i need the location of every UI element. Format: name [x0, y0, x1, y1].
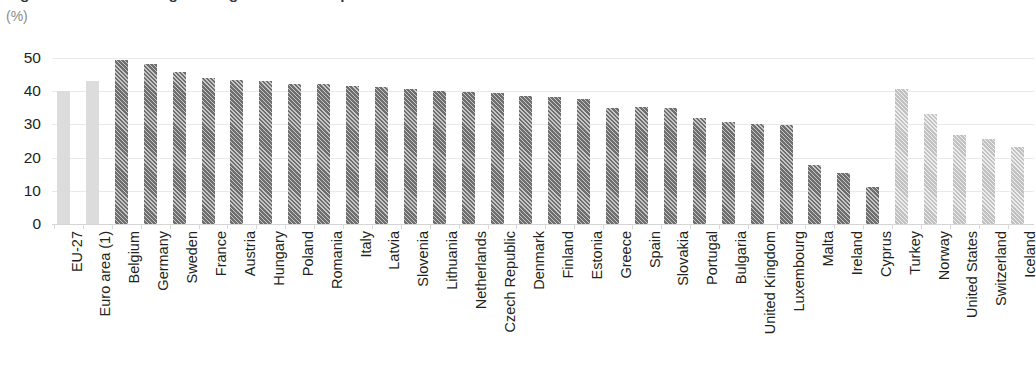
bar-cyprus[interactable] [866, 187, 879, 224]
tickmark-15 [488, 224, 489, 229]
tickmark-8 [285, 224, 286, 229]
bar-series [52, 58, 1034, 224]
tickmark-0 [54, 224, 55, 229]
bar-latvia[interactable] [375, 87, 388, 224]
x-axis-label-romania: Romania [330, 231, 345, 289]
tickmark-24 [748, 224, 749, 229]
x-axis-label-belgium: Belgium [127, 231, 142, 283]
y-axis-label-0: 0 [32, 216, 41, 232]
bar-netherlands[interactable] [462, 92, 475, 224]
tickmark-26 [805, 224, 806, 229]
x-axis-label-netherlands: Netherlands [474, 231, 489, 309]
bar-greece[interactable] [606, 108, 619, 224]
x-axis-label-united-states: United States [965, 231, 980, 318]
x-axis-label-norway: Norway [937, 231, 952, 280]
x-axis-label-sweden: Sweden [185, 231, 200, 283]
bar-euro-area-1[interactable] [86, 81, 99, 224]
x-axis-category-labels: EU-27Euro area (1)BelgiumGermanySwedenFr… [52, 231, 1034, 381]
bar-belgium[interactable] [115, 60, 128, 224]
bar-romania[interactable] [317, 84, 330, 224]
tickmark-30 [921, 224, 922, 229]
bar-france[interactable] [202, 78, 215, 224]
tickmark-5 [199, 224, 200, 229]
bar-austria[interactable] [230, 80, 243, 224]
x-axis-label-france: France [214, 231, 229, 276]
x-axis-label-austria: Austria [243, 231, 258, 276]
tickmark-1 [83, 224, 84, 229]
x-axis-tickmarks [52, 224, 1034, 229]
x-axis-label-united-kingdom: United Kingdom [763, 231, 778, 334]
x-axis-label-portugal: Portugal [705, 231, 720, 285]
bar-malta[interactable] [808, 165, 821, 224]
y-axis-label-30: 30 [24, 116, 41, 132]
bar-united-kingdom[interactable] [751, 124, 764, 224]
tickmark-21 [661, 224, 662, 229]
bar-slovenia[interactable] [404, 89, 417, 224]
tickmark-11 [372, 224, 373, 229]
bar-iceland[interactable] [1011, 147, 1024, 224]
tickmark-13 [430, 224, 431, 229]
tickmark-31 [950, 224, 951, 229]
bar-spain[interactable] [635, 107, 648, 224]
tickmark-2 [112, 224, 113, 229]
bar-denmark[interactable] [519, 96, 532, 224]
bar-luxembourg[interactable] [780, 125, 793, 224]
tickmark-3 [141, 224, 142, 229]
x-axis-label-eu-27: EU-27 [70, 231, 85, 272]
bar-hungary[interactable] [259, 81, 272, 224]
x-axis-label-czech-republic: Czech Republic [503, 231, 518, 333]
bar-sweden[interactable] [173, 72, 186, 224]
bar-bulgaria[interactable] [722, 122, 735, 224]
tickmark-7 [256, 224, 257, 229]
tickmark-27 [834, 224, 835, 229]
tickmark-12 [401, 224, 402, 229]
bar-portugal[interactable] [693, 118, 706, 224]
bar-estonia[interactable] [577, 99, 590, 224]
bar-lithuania[interactable] [433, 91, 446, 224]
bar-switzerland[interactable] [982, 139, 995, 224]
bar-turkey[interactable] [895, 89, 908, 224]
x-axis-label-slovakia: Slovakia [676, 231, 691, 286]
bar-czech-republic[interactable] [491, 93, 504, 224]
tickmark-9 [314, 224, 315, 229]
x-axis-label-estonia: Estonia [590, 231, 605, 279]
y-axis-label-50: 50 [24, 50, 41, 66]
tickmark-28 [863, 224, 864, 229]
tickmark-10 [343, 224, 344, 229]
bar-poland[interactable] [288, 84, 301, 224]
x-axis-label-iceland: Iceland [1023, 231, 1036, 278]
x-axis-label-ireland: Ireland [850, 231, 865, 275]
x-axis-label-denmark: Denmark [532, 231, 547, 290]
tickmark-33 [1008, 224, 1009, 229]
x-axis-label-greece: Greece [619, 231, 634, 279]
x-axis-label-latvia: Latvia [387, 231, 402, 270]
tickmark-29 [892, 224, 893, 229]
tickmark-22 [690, 224, 691, 229]
y-axis: 01020304050 [0, 0, 52, 382]
x-axis-label-luxembourg: Luxembourg [792, 231, 807, 312]
y-axis-label-40: 40 [24, 83, 41, 99]
bar-italy[interactable] [346, 86, 359, 224]
tickmark-16 [516, 224, 517, 229]
bar-finland[interactable] [548, 97, 561, 224]
y-axis-label-10: 10 [24, 183, 41, 199]
y-axis-label-20: 20 [24, 150, 41, 166]
x-axis-label-malta: Malta [821, 231, 836, 266]
bar-united-states[interactable] [953, 135, 966, 224]
bar-norway[interactable] [924, 114, 937, 224]
bar-slovakia[interactable] [664, 108, 677, 224]
x-axis-label-italy: Italy [359, 231, 374, 258]
bar-ireland[interactable] [837, 173, 850, 224]
tickmark-19 [603, 224, 604, 229]
x-axis-label-germany: Germany [156, 231, 171, 291]
x-axis-label-switzerland: Switzerland [994, 231, 1009, 306]
x-axis-label-spain: Spain [648, 231, 663, 268]
tickmark-17 [545, 224, 546, 229]
bar-chart: 01020304050 EU-27Euro area (1)BelgiumGer… [0, 0, 1036, 382]
bar-eu-27[interactable] [57, 91, 70, 224]
x-axis-label-cyprus: Cyprus [879, 231, 894, 277]
tickmark-14 [459, 224, 460, 229]
bar-germany[interactable] [144, 64, 157, 224]
tickmark-20 [632, 224, 633, 229]
x-axis-label-bulgaria: Bulgaria [734, 231, 749, 284]
